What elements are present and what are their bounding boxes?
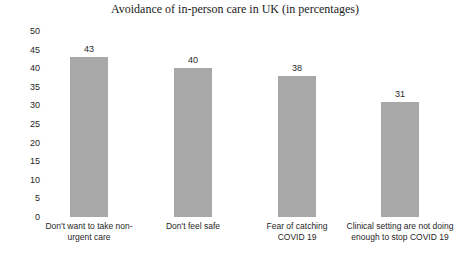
y-axis-tick-label: 40 — [18, 64, 40, 73]
bar-value-label: 31 — [375, 90, 425, 99]
y-axis-tick-label: 30 — [18, 101, 40, 110]
bar — [70, 57, 108, 217]
bar — [174, 68, 212, 217]
plot-area: 5045403530252015105043Don't want to take… — [0, 0, 470, 262]
y-axis-tick-label: 10 — [18, 175, 40, 184]
y-axis-tick-label: 45 — [18, 45, 40, 54]
y-axis-tick-label: 5 — [18, 194, 40, 203]
y-axis-tick-label: 15 — [18, 157, 40, 166]
x-axis-category-label: Clinical setting are not doing enough to… — [335, 221, 465, 242]
bar-value-label: 43 — [64, 45, 114, 54]
bar-chart-figure: Avoidance of in-person care in UK (in pe… — [0, 0, 470, 262]
y-axis-tick-label: 20 — [18, 138, 40, 147]
x-axis-category-label: Fear of catching COVID 19 — [252, 221, 342, 242]
y-axis-tick-label: 35 — [18, 82, 40, 91]
y-axis-tick-label: 50 — [18, 27, 40, 36]
x-axis-category-label: Don't feel safe — [148, 221, 238, 232]
y-axis-tick-label: 25 — [18, 120, 40, 129]
bar-value-label: 40 — [168, 56, 218, 65]
x-axis-category-label: Don't want to take non-urgent care — [34, 221, 144, 242]
bar — [381, 102, 419, 217]
bar-value-label: 38 — [272, 64, 322, 73]
bar — [278, 76, 316, 217]
